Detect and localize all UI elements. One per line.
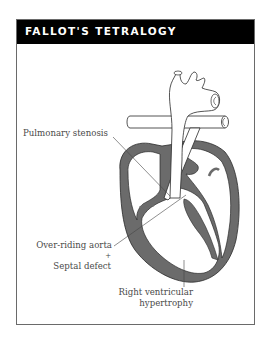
label-rv-hypertrophy-1: Right ventricular xyxy=(110,287,193,298)
label-rv-hypertrophy-2: hypertrophy xyxy=(110,298,193,309)
label-overriding-aorta: Over-riding aorta xyxy=(22,240,112,251)
label-septal-defect: Septal defect xyxy=(22,261,111,272)
label-pulmonary-stenosis: Pulmonary stenosis xyxy=(23,128,108,139)
